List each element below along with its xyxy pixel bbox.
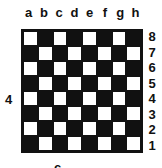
square-d6 [67, 61, 82, 76]
rank-label-2: 2 [145, 122, 159, 138]
square-c7 [53, 46, 68, 61]
square-e3 [82, 106, 97, 121]
rank-label-3: 3 [145, 107, 159, 123]
square-b7 [39, 47, 52, 60]
square-d4 [67, 91, 82, 106]
rank-label-4: 4 [145, 91, 159, 107]
square-e7 [82, 46, 97, 61]
square-h4 [126, 91, 141, 106]
file-label-f: f [97, 5, 112, 21]
square-a8 [24, 32, 37, 45]
square-d7 [68, 47, 81, 60]
square-g6 [113, 62, 126, 75]
square-g4 [113, 92, 126, 105]
square-d8 [67, 31, 82, 46]
square-e4 [83, 92, 96, 105]
square-h7 [127, 47, 140, 60]
square-a7 [23, 46, 38, 61]
square-a2 [24, 122, 37, 135]
square-f7 [98, 47, 111, 60]
square-h8 [126, 31, 141, 46]
square-f5 [98, 77, 111, 90]
rank-label-5: 5 [145, 76, 159, 92]
square-b4 [38, 91, 53, 106]
rank-label-1: 1 [145, 138, 159, 154]
square-b5 [39, 77, 52, 90]
rank-label-6: 6 [145, 60, 159, 76]
file-label-g: g [113, 5, 128, 21]
square-b2 [38, 121, 53, 136]
square-e1 [82, 136, 97, 151]
square-f3 [98, 107, 111, 120]
square-g1 [112, 136, 127, 151]
chessboard [21, 29, 143, 153]
square-g3 [112, 106, 127, 121]
square-h3 [127, 107, 140, 120]
square-d5 [68, 77, 81, 90]
square-b1 [39, 137, 52, 150]
square-a5 [23, 76, 38, 91]
square-h6 [126, 61, 141, 76]
square-a6 [24, 62, 37, 75]
square-e2 [83, 122, 96, 135]
square-g8 [113, 32, 126, 45]
square-g7 [112, 46, 127, 61]
file-label-c: c [52, 5, 67, 21]
square-e8 [83, 32, 96, 45]
file-label-h: h [128, 5, 143, 21]
side-label: 4 [5, 92, 12, 107]
file-label-a: a [21, 5, 36, 21]
square-a1 [23, 136, 38, 151]
square-f6 [97, 61, 112, 76]
square-f8 [97, 31, 112, 46]
rank-label-8: 8 [145, 29, 159, 45]
square-b8 [38, 31, 53, 46]
square-c8 [54, 32, 67, 45]
square-f4 [97, 91, 112, 106]
square-c6 [54, 62, 67, 75]
square-g2 [113, 122, 126, 135]
square-e5 [82, 76, 97, 91]
square-f1 [98, 137, 111, 150]
square-b3 [39, 107, 52, 120]
square-a3 [23, 106, 38, 121]
file-label-b: b [36, 5, 51, 21]
square-g5 [112, 76, 127, 91]
square-h2 [126, 121, 141, 136]
square-e6 [83, 62, 96, 75]
square-c2 [54, 122, 67, 135]
square-d2 [67, 121, 82, 136]
square-c5 [53, 76, 68, 91]
rank-label-7: 7 [145, 45, 159, 61]
file-labels: abcdefgh [21, 5, 143, 21]
bottom-label: c [54, 160, 61, 168]
square-c1 [53, 136, 68, 151]
square-h5 [127, 77, 140, 90]
square-c4 [54, 92, 67, 105]
square-d1 [68, 137, 81, 150]
file-label-d: d [67, 5, 82, 21]
square-d3 [68, 107, 81, 120]
rank-labels: 87654321 [145, 29, 159, 153]
square-h1 [127, 137, 140, 150]
square-b6 [38, 61, 53, 76]
square-f2 [97, 121, 112, 136]
file-label-e: e [82, 5, 97, 21]
square-c3 [53, 106, 68, 121]
square-a4 [24, 92, 37, 105]
